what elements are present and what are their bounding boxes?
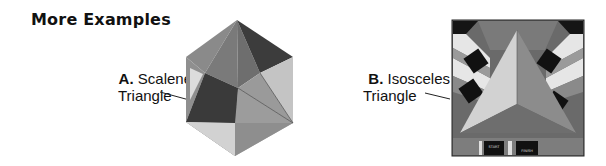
- start-label: START: [489, 145, 501, 149]
- hexagon-figure: [186, 20, 293, 156]
- square-floor-figure: START FINISH: [452, 20, 584, 156]
- finish-label: FINISH: [521, 149, 533, 153]
- leader-line-b: [425, 93, 450, 99]
- figures-canvas: START FINISH: [0, 0, 606, 166]
